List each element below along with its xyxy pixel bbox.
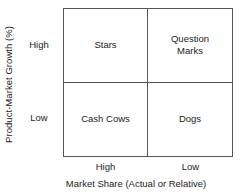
x-axis-title: Market Share (Actual or Relative) [23, 178, 249, 189]
quadrant-question-marks-line1: Question [171, 33, 209, 44]
x-axis-tick-high: High [63, 161, 148, 172]
quadrant-dogs-label: Dogs [179, 113, 201, 125]
quadrant-cash-cows-label: Cash Cows [81, 113, 130, 125]
y-axis-title-label: Product-Market Growth (%) [3, 26, 14, 143]
quadrant-question-marks-line2: Marks [177, 45, 203, 56]
quadrant-cash-cows: Cash Cows [64, 83, 148, 157]
y-axis-tick-low: Low [18, 112, 60, 123]
quadrant-stars-label: Stars [94, 39, 116, 51]
growth-share-matrix-figure: Product-Market Growth (%) High Low Stars… [0, 0, 249, 195]
y-axis-tick-high: High [18, 39, 60, 50]
matrix-grid: Stars Question Marks Cash Cows Dogs [63, 8, 233, 157]
quadrant-stars: Stars [64, 9, 148, 83]
x-axis-tick-low: Low [148, 161, 233, 172]
quadrant-question-marks: Question Marks [148, 9, 232, 83]
quadrant-question-marks-label: Question Marks [171, 33, 209, 57]
quadrant-dogs: Dogs [148, 83, 232, 157]
y-axis-title: Product-Market Growth (%) [0, 0, 16, 168]
